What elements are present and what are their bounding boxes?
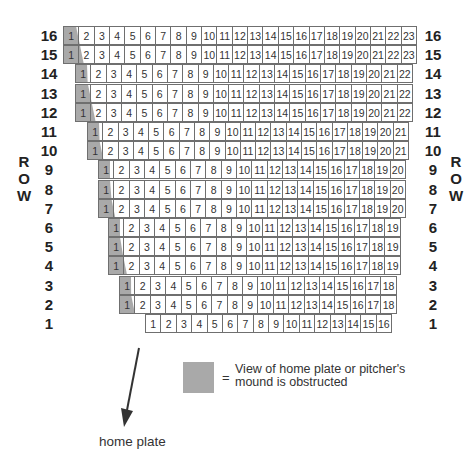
seat[interactable]: 6 bbox=[196, 276, 212, 295]
seat[interactable]: 3 bbox=[94, 45, 110, 64]
seat[interactable]: 17 bbox=[309, 26, 325, 45]
seat[interactable]: 15 bbox=[360, 314, 376, 333]
seat[interactable]: 15 bbox=[313, 180, 329, 199]
seat[interactable]: 13 bbox=[282, 199, 298, 218]
seat[interactable]: 14 bbox=[286, 141, 302, 160]
seat[interactable]: 13 bbox=[270, 122, 286, 141]
seat[interactable]: 17 bbox=[365, 295, 381, 314]
seat[interactable]: 16 bbox=[316, 141, 332, 160]
seat[interactable]: 22 bbox=[385, 26, 401, 45]
seat[interactable]: 23 bbox=[401, 45, 417, 64]
seat[interactable]: 14 bbox=[297, 180, 313, 199]
seat[interactable]: 14 bbox=[308, 256, 324, 275]
seat[interactable]: 15 bbox=[323, 256, 339, 275]
seat[interactable]: 6 bbox=[175, 180, 191, 199]
seat[interactable]: 4 bbox=[144, 180, 160, 199]
seat[interactable]: 20 bbox=[366, 64, 382, 83]
seat[interactable]: 12 bbox=[314, 314, 330, 333]
seat[interactable]: 7 bbox=[190, 199, 206, 218]
seat[interactable]: 16 bbox=[338, 218, 354, 237]
seat[interactable]: 11 bbox=[216, 45, 232, 64]
seat[interactable]: 11 bbox=[251, 199, 267, 218]
seat[interactable]: 8 bbox=[253, 314, 269, 333]
seat[interactable]: 7 bbox=[167, 103, 183, 122]
seat[interactable]: 6 bbox=[185, 256, 201, 275]
seat[interactable]: 22 bbox=[385, 45, 401, 64]
seat[interactable]: 3 bbox=[94, 26, 110, 45]
seat[interactable]: 4 bbox=[109, 45, 125, 64]
seat[interactable]: 9 bbox=[186, 26, 202, 45]
seat[interactable]: 3 bbox=[129, 180, 145, 199]
seat[interactable]: 20 bbox=[366, 103, 382, 122]
seat[interactable]: 1 bbox=[87, 122, 103, 141]
seat[interactable]: 8 bbox=[170, 26, 186, 45]
seat[interactable]: 10 bbox=[246, 237, 262, 256]
seat[interactable]: 19 bbox=[374, 160, 390, 179]
seat[interactable]: 5 bbox=[124, 45, 140, 64]
seat[interactable]: 18 bbox=[324, 45, 340, 64]
seat[interactable]: 16 bbox=[305, 64, 321, 83]
seat[interactable]: 1 bbox=[63, 26, 79, 45]
seat[interactable]: 12 bbox=[255, 122, 271, 141]
seat[interactable]: 15 bbox=[323, 237, 339, 256]
seat[interactable]: 1 bbox=[108, 218, 124, 237]
seat[interactable]: 10 bbox=[213, 64, 229, 83]
seat[interactable]: 11 bbox=[262, 237, 278, 256]
seat[interactable]: 16 bbox=[305, 103, 321, 122]
seat[interactable]: 3 bbox=[106, 103, 122, 122]
seat[interactable]: 9 bbox=[221, 199, 237, 218]
seat[interactable]: 8 bbox=[205, 180, 221, 199]
seat[interactable]: 1 bbox=[108, 237, 124, 256]
seat[interactable]: 17 bbox=[320, 103, 336, 122]
seat[interactable]: 11 bbox=[228, 64, 244, 83]
seat[interactable]: 6 bbox=[185, 237, 201, 256]
seat[interactable]: 20 bbox=[390, 180, 406, 199]
seat[interactable]: 12 bbox=[288, 295, 304, 314]
seat[interactable]: 9 bbox=[209, 122, 225, 141]
seat[interactable]: 12 bbox=[243, 64, 259, 83]
seat[interactable]: 2 bbox=[90, 84, 106, 103]
seat[interactable]: 6 bbox=[152, 84, 168, 103]
seat[interactable]: 8 bbox=[182, 84, 198, 103]
seat[interactable]: 15 bbox=[313, 160, 329, 179]
seat[interactable]: 7 bbox=[179, 122, 195, 141]
seat[interactable]: 5 bbox=[181, 276, 197, 295]
seat[interactable]: 19 bbox=[339, 26, 355, 45]
seat[interactable]: 7 bbox=[211, 276, 227, 295]
seat[interactable]: 3 bbox=[139, 218, 155, 237]
seat[interactable]: 1 bbox=[119, 295, 135, 314]
seat[interactable]: 13 bbox=[304, 276, 320, 295]
seat[interactable]: 9 bbox=[198, 84, 214, 103]
seat[interactable]: 16 bbox=[293, 26, 309, 45]
seat[interactable]: 7 bbox=[167, 64, 183, 83]
seat[interactable]: 19 bbox=[374, 199, 390, 218]
seat[interactable]: 18 bbox=[359, 199, 375, 218]
seat[interactable]: 4 bbox=[121, 103, 137, 122]
seat[interactable]: 12 bbox=[243, 84, 259, 103]
seat[interactable]: 6 bbox=[152, 64, 168, 83]
seat[interactable]: 18 bbox=[335, 64, 351, 83]
seat[interactable]: 3 bbox=[176, 314, 192, 333]
seat[interactable]: 13 bbox=[247, 26, 263, 45]
seat[interactable]: 20 bbox=[355, 26, 371, 45]
seat[interactable]: 7 bbox=[200, 256, 216, 275]
seat[interactable]: 19 bbox=[384, 256, 400, 275]
seat[interactable]: 8 bbox=[170, 45, 186, 64]
seat[interactable]: 1 bbox=[98, 160, 114, 179]
seat[interactable]: 22 bbox=[397, 103, 413, 122]
seat[interactable]: 10 bbox=[201, 45, 217, 64]
seat[interactable]: 17 bbox=[320, 84, 336, 103]
seat[interactable]: 12 bbox=[267, 160, 283, 179]
seat[interactable]: 17 bbox=[344, 199, 360, 218]
seat[interactable]: 2 bbox=[113, 180, 129, 199]
seat[interactable]: 15 bbox=[278, 45, 294, 64]
seat[interactable]: 15 bbox=[278, 26, 294, 45]
seat[interactable]: 4 bbox=[133, 141, 149, 160]
seat[interactable]: 21 bbox=[393, 141, 409, 160]
seat[interactable]: 14 bbox=[297, 199, 313, 218]
seat[interactable]: 10 bbox=[257, 276, 273, 295]
seat[interactable]: 1 bbox=[87, 141, 103, 160]
seat[interactable]: 21 bbox=[370, 26, 386, 45]
seat[interactable]: 5 bbox=[159, 180, 175, 199]
seat[interactable]: 12 bbox=[277, 237, 293, 256]
